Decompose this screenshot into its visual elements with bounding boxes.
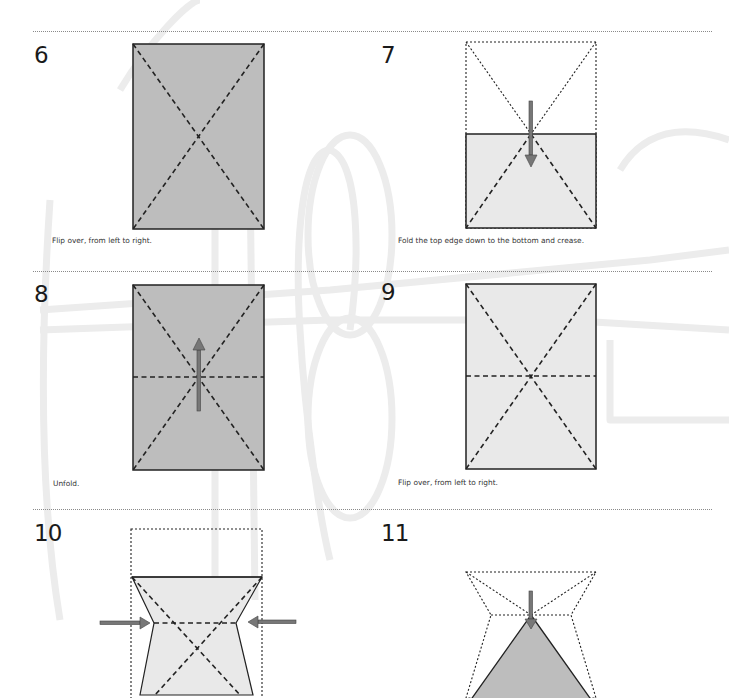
section-divider: [33, 509, 712, 510]
arrow-right-icon: [100, 617, 150, 629]
step-number: 10: [34, 522, 61, 545]
step-7-diagram: [462, 38, 602, 233]
arrow-left-icon: [248, 616, 296, 628]
step-8-diagram: [130, 281, 270, 476]
step-number: 11: [381, 522, 408, 545]
step-9-diagram: [462, 280, 602, 475]
step-6-diagram: [130, 40, 270, 235]
step-caption: Flip over, from left to right.: [398, 478, 498, 487]
step-caption: Fold the top edge down to the bottom and…: [398, 236, 584, 245]
step-number: 8: [34, 283, 48, 306]
step-number: 7: [381, 44, 395, 67]
step-11-diagram: [462, 568, 602, 698]
step-10-diagram: [95, 525, 305, 695]
step-caption: Flip over, from left to right.: [52, 236, 152, 245]
section-divider: [33, 271, 712, 272]
section-divider: [33, 31, 712, 32]
step-number: 6: [34, 44, 48, 67]
step-caption: Unfold.: [53, 479, 79, 488]
step-number: 9: [381, 281, 395, 304]
